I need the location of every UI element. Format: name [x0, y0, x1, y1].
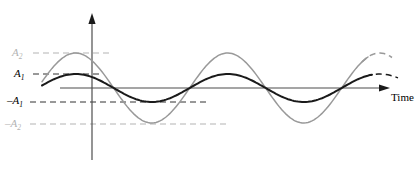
waveform-figure: A2 A1 –A1 –A2 Time — [0, 0, 418, 174]
label-neg-amplitude-1-text: –A — [7, 94, 19, 106]
label-amplitude-1-text: A — [14, 67, 21, 79]
label-amplitude-2-text: A — [12, 46, 19, 58]
label-amplitude-1-subscript: 1 — [21, 73, 25, 82]
label-time-axis: Time — [391, 91, 414, 103]
label-neg-amplitude-1: –A1 — [7, 95, 23, 109]
x-axis-arrowhead — [379, 84, 390, 91]
label-amplitude-2: A2 — [12, 47, 22, 61]
label-neg-amplitude-2: –A2 — [5, 118, 21, 132]
label-amplitude-1: A1 — [14, 68, 24, 82]
label-neg-amplitude-1-subscript: 1 — [19, 100, 23, 109]
label-amplitude-2-subscript: 2 — [19, 52, 23, 61]
y-axis-arrowhead — [88, 13, 95, 24]
label-neg-amplitude-2-text: –A — [5, 117, 17, 129]
label-neg-amplitude-2-subscript: 2 — [17, 123, 21, 132]
waveform-plot — [0, 0, 418, 174]
